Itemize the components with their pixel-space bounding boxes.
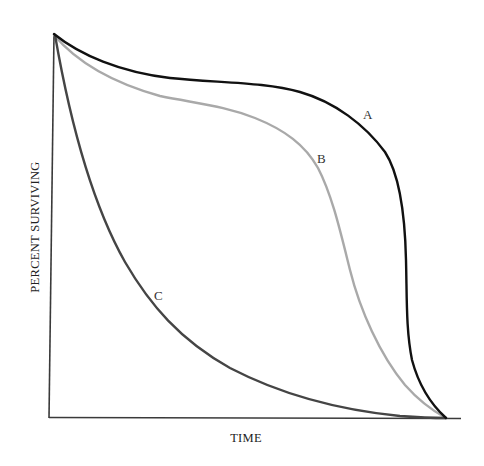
x-axis-title: TIME: [230, 431, 262, 445]
curve-b-label: B: [317, 151, 326, 166]
axes: [49, 34, 461, 419]
survivorship-chart: A B C TIME PERCENT SURVIVING: [0, 0, 484, 466]
y-axis: [49, 34, 54, 418]
curve-b: [54, 35, 446, 418]
curve-c-label: C: [154, 288, 163, 303]
x-axis: [49, 418, 461, 419]
curve-a-label: A: [363, 107, 373, 122]
y-axis-title: PERCENT SURVIVING: [28, 161, 42, 292]
